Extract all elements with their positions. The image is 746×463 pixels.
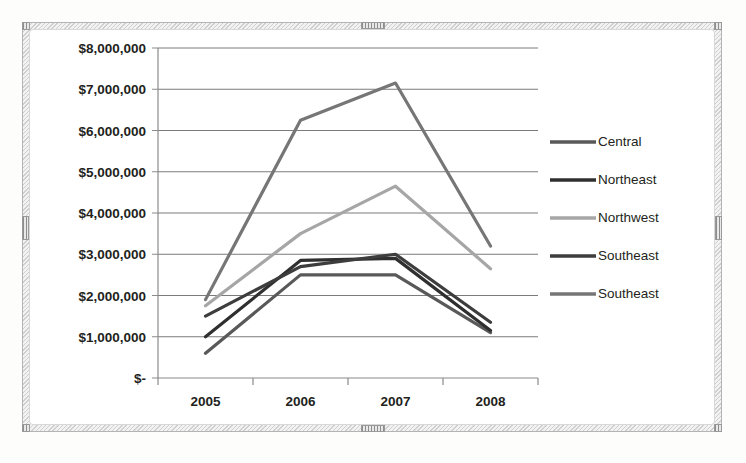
chart-plot-area[interactable]: $8,000,000$7,000,000$6,000,000$5,000,000…	[29, 29, 715, 425]
resize-handle-top[interactable]	[361, 22, 385, 29]
series-line	[206, 258, 491, 336]
x-axis-tick-label: 2007	[380, 394, 410, 409]
series-line	[206, 275, 491, 353]
x-axis-tick-label: 2006	[285, 394, 316, 409]
y-axis-tick-label: $-	[134, 371, 146, 386]
y-axis-tick-label: $6,000,000	[78, 124, 146, 139]
line-chart-svg: $8,000,000$7,000,000$6,000,000$5,000,000…	[30, 30, 715, 425]
legend-item-label[interactable]: Southeast	[598, 286, 659, 301]
series-line	[206, 83, 491, 300]
legend-item-label[interactable]: Central	[598, 134, 642, 149]
x-axis-tick-labels: 2005200620072008	[190, 394, 506, 409]
legend-item-label[interactable]: Northwest	[598, 210, 659, 225]
resize-handle-right[interactable]	[715, 216, 722, 240]
resize-handle-bottom-left[interactable]	[22, 424, 30, 432]
chart-object-frame[interactable]: $8,000,000$7,000,000$6,000,000$5,000,000…	[22, 22, 722, 432]
resize-handle-left[interactable]	[22, 216, 29, 240]
y-axis-tick-label: $5,000,000	[78, 165, 146, 180]
y-axis-tick-label: $1,000,000	[78, 330, 146, 345]
resize-handle-top-right[interactable]	[714, 22, 722, 30]
gridlines-group	[158, 48, 538, 337]
legend-item-label[interactable]: Northeast	[598, 172, 657, 187]
y-axis-tick-label: $2,000,000	[78, 289, 146, 304]
x-axis-tick-label: 2005	[190, 394, 221, 409]
y-axis-tick-label: $3,000,000	[78, 247, 146, 262]
series-lines-group	[206, 83, 491, 353]
resize-handle-bottom[interactable]	[361, 425, 385, 432]
y-axis-tick-labels: $8,000,000$7,000,000$6,000,000$5,000,000…	[78, 41, 146, 386]
resize-handle-top-left[interactable]	[22, 22, 30, 30]
resize-handle-bottom-right[interactable]	[714, 424, 722, 432]
scanned-page-background: $8,000,000$7,000,000$6,000,000$5,000,000…	[0, 0, 746, 463]
y-axis-tick-label: $4,000,000	[78, 206, 146, 221]
chart-legend[interactable]: CentralNortheastNorthwestSoutheastSouthe…	[550, 134, 659, 301]
y-axis-tick-label: $7,000,000	[78, 82, 146, 97]
series-line	[206, 186, 491, 306]
legend-item-label[interactable]: Southeast	[598, 248, 659, 263]
x-axis-tick-label: 2008	[475, 394, 506, 409]
y-axis-tick-label: $8,000,000	[78, 41, 146, 56]
series-line	[206, 254, 491, 322]
